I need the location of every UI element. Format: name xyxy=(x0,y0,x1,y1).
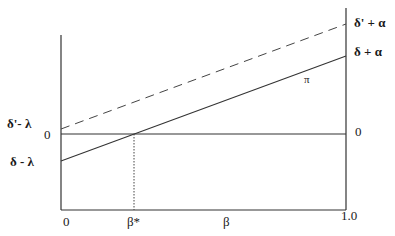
label-x-one: 1.0 xyxy=(341,208,357,223)
label-pi: π xyxy=(304,73,310,85)
label-beta-star: β* xyxy=(127,214,140,229)
diagram-canvas: δ'- λ 0 δ - λ δ' + α δ + α 0 π 0 β* β 1.… xyxy=(0,0,395,236)
label-delta-minus-lambda: δ - λ xyxy=(10,154,35,169)
label-right-zero: 0 xyxy=(355,124,362,139)
label-x-zero: 0 xyxy=(63,214,70,229)
label-left-zero: 0 xyxy=(44,127,51,142)
label-delta-plus-alpha: δ + α xyxy=(354,44,383,59)
label-delta-prime-minus-lambda: δ'- λ xyxy=(7,116,32,131)
solid-line-pi xyxy=(61,56,346,161)
label-delta-prime-plus-alpha: δ' + α xyxy=(354,15,386,30)
label-beta: β xyxy=(223,214,230,229)
